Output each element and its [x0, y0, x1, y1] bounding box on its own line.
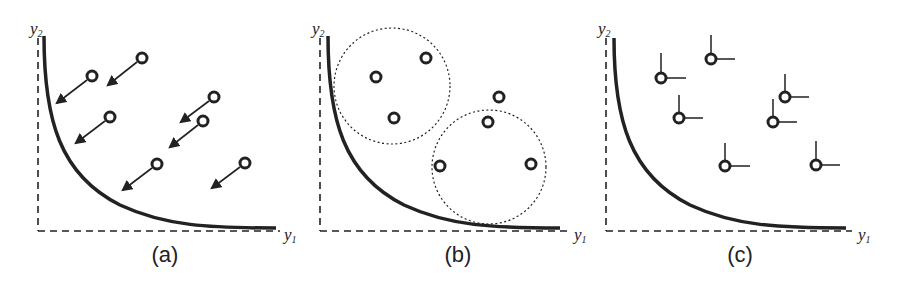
panel-a: y2 y1 (a) [28, 19, 297, 267]
solution-points [656, 54, 821, 171]
niche-circle [334, 28, 450, 144]
y-axis-label: y2 [28, 19, 43, 39]
x-axis-label: y1 [282, 225, 297, 245]
solution-points [87, 53, 250, 169]
pareto-front-curve [44, 36, 276, 228]
panel-label-a: (a) [152, 242, 179, 267]
panel-c: y2 y1 (c) [596, 19, 871, 267]
y-axis-label: y2 [596, 19, 611, 39]
panel-label-c: (c) [727, 242, 753, 267]
solution-points [371, 53, 536, 171]
pareto-front-curve [614, 38, 846, 228]
y-axis-label: y2 [310, 19, 325, 39]
x-axis-label: y1 [572, 225, 587, 245]
x-axis-label: y1 [856, 225, 871, 245]
dominance-lines [661, 35, 840, 166]
convergence-arrows [57, 62, 240, 190]
panel-b: y2 y1 (b) [310, 19, 587, 267]
panel-label-b: (b) [445, 242, 472, 267]
figure-canvas: y2 y1 (a) y2 y1 [0, 0, 904, 281]
